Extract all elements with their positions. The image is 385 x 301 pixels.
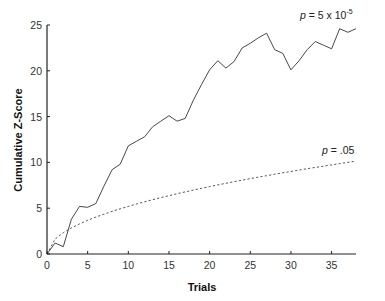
y-tick-label: 15 [30, 111, 42, 123]
cumulative-z-line [47, 29, 356, 254]
x-tick-label: 35 [326, 259, 338, 271]
annotation-p-value: = 5 x 10 [306, 9, 347, 21]
x-tick-label: 0 [44, 259, 50, 271]
y-tick-label: 5 [36, 202, 42, 214]
annotation-p-value: = .05 [328, 144, 355, 156]
x-tick-label: 20 [204, 259, 216, 271]
x-tick-label: 25 [244, 259, 256, 271]
annotation-p-05: p = .05 [321, 144, 355, 156]
y-tick-label: 0 [36, 248, 42, 260]
threshold-line [47, 161, 356, 254]
axes: 051015202530350510152025 [30, 19, 356, 271]
x-axis-title: Trials [188, 281, 217, 293]
y-tick-label: 25 [30, 19, 42, 31]
annotation-exponent: -5 [346, 8, 352, 15]
annotation-p-5e-5: p = 5 x 10-5 [299, 8, 353, 21]
y-axis-title: Cumulative Z-Score [12, 88, 24, 191]
x-tick-label: 30 [285, 259, 297, 271]
plot-area [47, 29, 356, 254]
y-tick-label: 10 [30, 156, 42, 168]
x-tick-label: 10 [122, 259, 134, 271]
chart: 051015202530350510152025 Trials Cumulati… [0, 0, 385, 301]
y-tick-label: 20 [30, 65, 42, 77]
x-tick-label: 15 [163, 259, 175, 271]
x-tick-label: 5 [85, 259, 91, 271]
